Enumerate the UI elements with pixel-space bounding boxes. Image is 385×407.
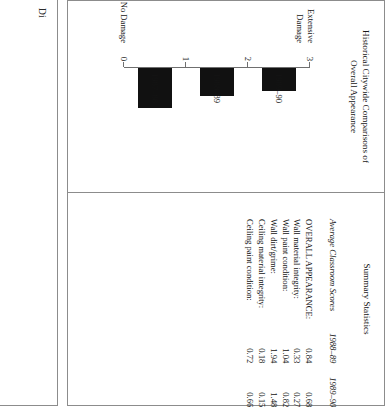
value-tick-2 (247, 62, 248, 67)
axis-endpoint-low: No Damage (118, 0, 129, 43)
stats-table: Average Classroom Scores 1988–89 1989–90… (244, 219, 338, 407)
stats-col-header-1989-90: 1989–90 (315, 363, 338, 407)
value-tick-label-3: 3 (305, 45, 314, 61)
value-tick-label-2: 2 (243, 45, 252, 61)
value-tick-label-1: 1 (181, 45, 190, 61)
axis-endpoint-high: ExtensiveDamage (295, 0, 316, 43)
value-tick-label-0: 0 (119, 45, 128, 61)
stats-value-1988-89: 0.72 (244, 319, 256, 363)
stats-value-1989-90: 1.48 (268, 363, 280, 407)
table-row: Ceiling material integrity:0.180.15 (256, 219, 268, 407)
stats-col-header-label: Average Classroom Scores (315, 219, 338, 319)
chart-title: Historical Citywide Comparisons of Overa… (348, 1, 372, 192)
stats-row-label: Wall dirt/grime: (268, 219, 280, 319)
bar-chart-panel: Historical Citywide Comparisons of Overa… (68, 1, 384, 193)
stats-value-1988-89: 1.04 (280, 319, 292, 363)
stats-row-label: Wall material integrity: (291, 219, 303, 319)
stats-value-1988-89: 1.94 (268, 319, 280, 363)
category-label-1988–89: 1988–89 (212, 73, 221, 103)
value-tick-0 (123, 62, 124, 67)
chart-title-line-2: Overall Appearance (348, 1, 360, 192)
stats-value-1989-90: 0.27 (291, 363, 303, 407)
category-label-1987–88: 1987–88 (150, 73, 159, 103)
stats-value-1989-90: 0.82 (280, 363, 292, 407)
stats-col-header-1988-89: 1988–89 (315, 319, 338, 363)
stats-row-label: OVERALL APPEARANCE: (303, 219, 315, 319)
partial-panel-above: Di (0, 0, 58, 406)
stats-table-body: OVERALL APPEARANCE:0.840.68Wall material… (244, 219, 315, 407)
category-label-1989–90: 1989–90 (274, 73, 283, 103)
table-row: Wall dirt/grime:1.941.48 (268, 219, 280, 407)
stats-value-1989-90: 0.66 (244, 363, 256, 407)
stats-header-row: Average Classroom Scores 1988–89 1989–90 (315, 219, 338, 407)
stats-value-1988-89: 0.33 (291, 319, 303, 363)
summary-statistics-panel: Summary Statistics Average Classroom Sco… (68, 193, 384, 405)
stats-table-wrapper: Average Classroom Scores 1988–89 1989–90… (244, 219, 338, 391)
value-tick-3 (309, 62, 310, 67)
chart-plot-area: 0123 1987–881988–891989–90 No Damage Ext… (68, 1, 328, 192)
figure-panel: Historical Citywide Comparisons of Overa… (67, 0, 385, 406)
value-tick-1 (185, 62, 186, 67)
stats-row-label: Ceiling material integrity: (256, 219, 268, 319)
stats-row-label: Ceiling paint condition: (244, 219, 256, 319)
stats-value-1988-89: 0.18 (256, 319, 268, 363)
stats-title: Summary Statistics (362, 193, 372, 405)
table-row: Wall paint condition:1.040.82 (280, 219, 292, 407)
partial-panel-text-fragment: Di (37, 8, 47, 18)
chart-title-line-1: Historical Citywide Comparisons of (360, 1, 372, 192)
chart-axes: 0123 1987–881988–891989–90 No Damage Ext… (124, 67, 310, 167)
table-row: Wall material integrity:0.330.27 (291, 219, 303, 407)
table-row: OVERALL APPEARANCE:0.840.68 (303, 219, 315, 407)
table-row: Ceiling paint condition:0.720.66 (244, 219, 256, 407)
stats-value-1989-90: 0.15 (256, 363, 268, 407)
stats-row-label: Wall paint condition: (280, 219, 292, 319)
stats-value-1989-90: 0.68 (303, 363, 315, 407)
stats-value-1988-89: 0.84 (303, 319, 315, 363)
